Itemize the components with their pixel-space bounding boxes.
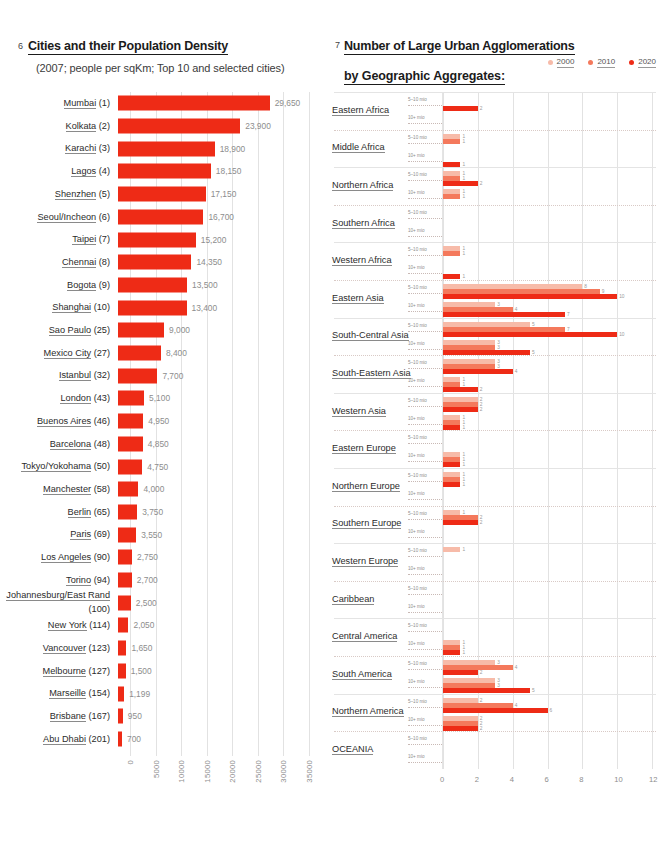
- bar: [118, 482, 138, 497]
- bar: [118, 709, 123, 724]
- size-class-label: 5–10 mio: [408, 699, 427, 704]
- label-leader-dots: [408, 537, 442, 538]
- size-class-label: 5–10 mio: [408, 736, 427, 741]
- city-label: Barcelona (48): [0, 439, 118, 450]
- bar: [443, 181, 478, 186]
- region-group: South America5–10 mio34210+ mio335: [330, 656, 660, 694]
- bar: [118, 255, 191, 270]
- legend-label: 2010: [597, 58, 615, 68]
- size-class-label: 10+ mio: [408, 378, 424, 383]
- size-class-label: 10+ mio: [408, 190, 424, 195]
- bar-value-label: 5: [532, 688, 535, 693]
- label-leader-dots: [408, 105, 442, 106]
- chart-row: Brisbane (167)950: [0, 705, 330, 728]
- size-class-label: 10+ mio: [408, 265, 424, 270]
- bar: [443, 251, 460, 256]
- bar-value-label: 10: [619, 332, 624, 337]
- bar-value-label: 3,750: [142, 507, 163, 517]
- bar-value-label: 18,900: [220, 144, 246, 154]
- bar: [443, 482, 460, 487]
- x-axis-tick-label: 0: [126, 760, 135, 765]
- bar: [443, 139, 460, 144]
- region-label: Northern Africa: [332, 180, 393, 190]
- bar: [118, 300, 187, 315]
- bar: [443, 462, 460, 467]
- region-label: Central America: [332, 631, 397, 641]
- size-class-label: 5–10 mio: [408, 97, 427, 102]
- bar-value-label: 2,500: [136, 598, 157, 608]
- group-separator: [334, 543, 656, 544]
- group-separator: [334, 694, 656, 695]
- size-class-label: 5–10 mio: [408, 172, 427, 177]
- size-class-label: 10+ mio: [408, 754, 424, 759]
- bar: [443, 708, 548, 713]
- region-group: Southern Europe5–10 mio12210+ mio: [330, 506, 660, 544]
- label-leader-dots: [408, 123, 442, 124]
- chart-row: Istanbul (32)7,700: [0, 364, 330, 387]
- bar-value-label: 2,750: [137, 552, 158, 562]
- bar: [118, 686, 124, 701]
- city-label: Vancouver (123): [0, 643, 118, 654]
- bar-value-label: 16,700: [208, 212, 234, 222]
- size-class-label: 10+ mio: [408, 416, 424, 421]
- group-separator: [334, 581, 656, 582]
- bar-value-label: 5,100: [149, 393, 170, 403]
- city-label: Melbourne (127): [0, 666, 118, 677]
- size-class-label: 5–10 mio: [408, 360, 427, 365]
- label-leader-dots: [408, 143, 442, 144]
- size-class-label: 5–10 mio: [408, 323, 427, 328]
- label-leader-dots: [408, 519, 442, 520]
- group-separator: [334, 318, 656, 319]
- city-label: Karachi (3): [0, 143, 118, 154]
- bar: [443, 688, 530, 693]
- bar-value-label: 1: [462, 194, 465, 199]
- chart-row: London (43)5,100: [0, 387, 330, 410]
- bar: [118, 391, 144, 406]
- legend-label: 2020: [638, 58, 656, 68]
- region-label: Eastern Asia: [332, 293, 384, 303]
- city-label: Mumbai (1): [0, 98, 118, 109]
- size-class-label: 5–10 mio: [408, 473, 427, 478]
- chart-row: Abu Dhabi (201)700: [0, 728, 330, 751]
- x-axis-tick-label: 2: [475, 775, 479, 784]
- region-group: Eastern Africa5–10 mio210+ mio: [330, 92, 660, 130]
- bar: [443, 425, 460, 430]
- left-panel-title: Cities and their Population Density: [28, 39, 228, 55]
- bar-value-label: 18,150: [216, 166, 242, 176]
- size-class-label: 5–10 mio: [408, 210, 427, 215]
- legend-swatch-icon: [548, 60, 553, 65]
- region-label: Eastern Africa: [332, 105, 389, 115]
- bar: [118, 232, 196, 247]
- group-separator: [334, 205, 656, 206]
- x-axis-tick-label: 5000: [152, 760, 161, 778]
- group-separator: [334, 167, 656, 168]
- group-separator: [334, 355, 656, 356]
- bar-value-label: 14,350: [196, 257, 222, 267]
- chart-row: Kolkata (2)23,900: [0, 115, 330, 138]
- bar-value-label: 10: [619, 294, 624, 299]
- city-label: Mexico City (27): [0, 348, 118, 359]
- bar: [443, 369, 513, 374]
- group-separator: [334, 92, 656, 93]
- region-group: OCEANIA5–10 mio10+ mio: [330, 731, 660, 769]
- chart-row: Mexico City (27)8,400: [0, 342, 330, 365]
- chart-row: Los Angeles (90)2,750: [0, 546, 330, 569]
- chart-row: New York (114)2,050: [0, 614, 330, 637]
- region-label: Western Africa: [332, 255, 392, 265]
- city-label: Abu Dhabi (201): [0, 734, 118, 745]
- region-label: OCEANIA: [332, 744, 373, 754]
- bar: [118, 618, 128, 633]
- size-class-label: 10+ mio: [408, 679, 424, 684]
- bar: [118, 527, 136, 542]
- city-label: Seoul/Incheon (6): [0, 212, 118, 223]
- label-leader-dots: [408, 649, 442, 650]
- bar: [118, 550, 132, 565]
- label-leader-dots: [408, 707, 442, 708]
- group-separator: [334, 468, 656, 469]
- bar-value-label: 3,550: [141, 530, 162, 540]
- bar-value-label: 5: [532, 350, 535, 355]
- label-leader-dots: [408, 481, 442, 482]
- size-class-label: 10+ mio: [408, 115, 424, 120]
- bar: [443, 547, 460, 552]
- city-label: Lagos (4): [0, 166, 118, 177]
